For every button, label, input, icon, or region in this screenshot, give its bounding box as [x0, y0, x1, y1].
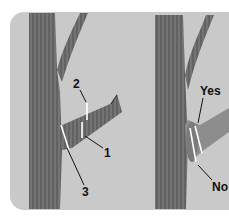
correct-cut-label: Yes	[200, 85, 221, 97]
incorrect-cut-label: No	[212, 181, 228, 193]
pruning-illustration	[0, 0, 229, 224]
cut-label-2: 2	[73, 78, 80, 90]
cut-label-3: 3	[82, 186, 89, 198]
cut-label-1: 1	[104, 147, 111, 159]
left-tree	[29, 13, 122, 209]
